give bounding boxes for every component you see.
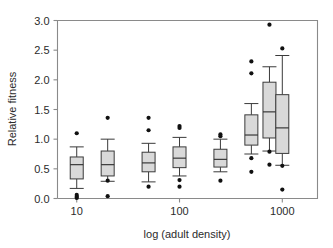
box-iqr [173, 147, 186, 168]
outlier-point [249, 170, 253, 174]
outlier-point [146, 185, 150, 189]
box-iqr [214, 149, 227, 167]
outlier-point [267, 150, 271, 154]
boxplot-box [275, 46, 289, 191]
outlier-point [177, 185, 181, 189]
y-tick-label: 0.5 [34, 163, 49, 175]
outlier-point [280, 46, 284, 50]
outlier-point [280, 188, 284, 192]
outlier-point [267, 163, 271, 167]
x-tick-label: 1000 [270, 205, 294, 217]
y-tick-label: 2.0 [34, 74, 49, 86]
y-tick-label: 2.5 [34, 44, 49, 56]
x-axis-ticks: 101001000 [71, 199, 295, 217]
outlier-point [267, 23, 271, 27]
y-tick-label: 3.0 [34, 15, 49, 27]
x-axis-title: log (adult density) [144, 228, 231, 240]
outlier-point [177, 178, 181, 182]
box-iqr [263, 82, 276, 138]
y-tick-label: 1.0 [34, 133, 49, 145]
outlier-point [146, 128, 150, 132]
boxplot-box [70, 131, 84, 200]
box-iqr [276, 95, 289, 154]
x-tick-label: 10 [71, 205, 83, 217]
boxplot-box [244, 59, 258, 174]
boxplot-series [70, 23, 290, 200]
outlier-point [218, 179, 222, 183]
outlier-point [75, 131, 79, 135]
y-axis-ticks: 0.00.51.01.52.02.53.0 [34, 15, 57, 205]
y-tick-label: 0.0 [34, 193, 49, 205]
outlier-point [146, 116, 150, 120]
box-iqr [245, 115, 258, 145]
outlier-point [249, 156, 253, 160]
boxplot-box [173, 124, 187, 189]
box-iqr [70, 157, 83, 179]
boxplot-box [213, 132, 227, 182]
box-iqr [101, 151, 114, 176]
chart-canvas: 0.00.51.01.52.02.53.0 101001000 Relative… [0, 0, 333, 248]
outlier-point [249, 59, 253, 63]
box-iqr [142, 152, 155, 172]
boxplot-box [101, 116, 115, 199]
outlier-point [106, 116, 110, 120]
outlier-point [280, 164, 284, 168]
y-axis-title: Relative fitness [6, 71, 18, 146]
outlier-point [177, 126, 181, 130]
outlier-point [249, 71, 253, 75]
outlier-point [106, 179, 110, 183]
boxplot-box [142, 116, 156, 189]
boxplot-figure: 0.00.51.01.52.02.53.0 101001000 Relative… [0, 0, 333, 248]
outlier-point [106, 194, 110, 198]
outlier-point [75, 196, 79, 200]
boxplot-box [262, 23, 276, 167]
x-tick-label: 100 [170, 205, 188, 217]
outlier-point [218, 134, 222, 138]
y-tick-label: 1.5 [34, 104, 49, 116]
